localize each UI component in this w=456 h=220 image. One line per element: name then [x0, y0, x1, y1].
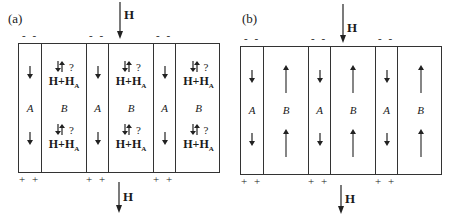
- domain-cell-a: A: [376, 47, 398, 174]
- question-mark: ?: [136, 124, 141, 136]
- undetermined-moment: ?: [109, 61, 153, 73]
- field-sum: H+HA: [109, 74, 153, 90]
- domain-cell-b: ? H+HA B ? H+HA: [109, 44, 154, 172]
- arrow-up-icon: [282, 129, 290, 157]
- question-mark: ?: [69, 61, 74, 73]
- undetermined-moment: ?: [42, 61, 86, 73]
- arrow-up-icon: [349, 65, 357, 93]
- domain-cell-b: B: [331, 47, 376, 174]
- domain-box: A ? H+HA B ? H+HA A ?: [18, 43, 220, 173]
- charge-plus: + +: [241, 175, 262, 187]
- arrow-up-icon: [282, 65, 290, 93]
- arrow-down-icon: [383, 133, 391, 147]
- undetermined-moment: ?: [42, 124, 86, 136]
- field-sum: H+HA: [42, 137, 86, 153]
- field-arrow-top: H: [340, 4, 370, 44]
- field-label: H: [123, 189, 133, 205]
- question-mark: ?: [69, 124, 74, 136]
- domain-cell-a: A: [241, 47, 264, 174]
- domain-cell-a: A: [19, 44, 42, 172]
- field-label: H: [345, 191, 355, 207]
- charge-minus: - -: [311, 32, 327, 44]
- undetermined-moment: ?: [176, 61, 221, 73]
- arrow-down-icon: [94, 66, 102, 80]
- domain-cell-b: B: [398, 47, 443, 174]
- arrow-down-icon: [316, 70, 324, 84]
- question-mark: ?: [203, 124, 208, 136]
- arrow-down-icon: [161, 66, 169, 80]
- cell-label: A: [241, 104, 263, 116]
- cell-label: B: [109, 102, 153, 114]
- cell-label: B: [264, 104, 308, 116]
- cell-label: B: [42, 102, 86, 114]
- arrow-down-icon: [316, 133, 324, 147]
- question-mark: ?: [203, 61, 208, 73]
- arrow-down-icon: [26, 132, 34, 146]
- arrow-down-icon: [94, 132, 102, 146]
- field-arrow-bottom: H: [116, 182, 146, 220]
- domain-cell-b: ? H+HA B ? H+HA: [176, 44, 221, 172]
- field-arrow-bottom: H: [338, 185, 368, 220]
- arrow-updown-icon: [121, 124, 133, 135]
- charge-plus: + +: [19, 173, 40, 185]
- domain-cell-b: B: [264, 47, 309, 174]
- arrow-down-icon: [383, 70, 391, 84]
- arrow-down-icon: [248, 70, 256, 84]
- arrow-down-icon: [26, 66, 34, 80]
- cell-label: B: [398, 104, 443, 116]
- arrow-updown-icon: [121, 61, 133, 72]
- cell-label: A: [19, 102, 41, 114]
- field-arrow-top: H: [117, 2, 147, 40]
- charge-minus: - -: [89, 29, 105, 41]
- panel-b: (b) H - - - - - - A B A B: [228, 0, 456, 220]
- charge-plus: + +: [86, 173, 107, 185]
- undetermined-moment: ?: [176, 124, 221, 136]
- domain-cell-a: A: [154, 44, 176, 172]
- arrow-updown-icon: [189, 124, 201, 135]
- arrow-up-icon: [417, 65, 425, 93]
- cell-label: B: [331, 104, 375, 116]
- question-mark: ?: [136, 61, 141, 73]
- domain-cell-a: A: [87, 44, 109, 172]
- cell-label: A: [154, 102, 175, 114]
- domain-box: A B A B A B: [240, 46, 442, 175]
- domain-cell-a: A: [309, 47, 331, 174]
- field-label: H: [124, 7, 134, 23]
- field-sum: H+HA: [42, 74, 86, 90]
- panel-label: (b): [242, 11, 257, 27]
- field-label: H: [347, 20, 357, 36]
- charge-plus: + +: [153, 173, 174, 185]
- charge-minus: - -: [156, 29, 172, 41]
- panel-label: (a): [8, 11, 22, 27]
- charge-minus: - -: [378, 32, 394, 44]
- arrow-updown-icon: [189, 61, 201, 72]
- arrow-updown-icon: [54, 61, 66, 72]
- cell-label: A: [87, 102, 108, 114]
- field-sum: H+HA: [109, 137, 153, 153]
- arrow-up-icon: [349, 129, 357, 157]
- charge-plus: + +: [308, 175, 329, 187]
- undetermined-moment: ?: [109, 124, 153, 136]
- arrow-up-icon: [417, 129, 425, 157]
- cell-label: B: [176, 102, 221, 114]
- charge-minus: - -: [244, 32, 260, 44]
- arrow-down-icon: [161, 132, 169, 146]
- domain-cell-b: ? H+HA B ? H+HA: [42, 44, 87, 172]
- field-sum: H+HA: [176, 74, 221, 90]
- charge-minus: - -: [22, 29, 38, 41]
- cell-label: A: [376, 104, 397, 116]
- cell-label: A: [309, 104, 330, 116]
- panel-a: (a) H - - - - - - A ? H+HA B ?: [0, 0, 228, 220]
- charge-plus: + +: [375, 175, 396, 187]
- arrow-down-icon: [248, 133, 256, 147]
- arrow-updown-icon: [54, 124, 66, 135]
- field-sum: H+HA: [176, 137, 221, 153]
